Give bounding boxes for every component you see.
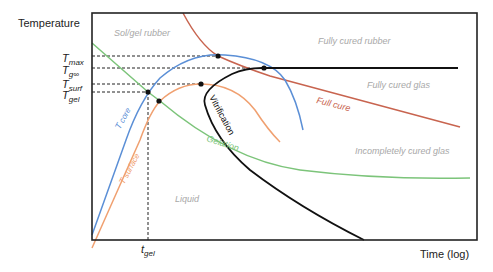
region-sol-gel-rubber: Sol/gel rubber <box>114 28 171 38</box>
label-gelation: Gelation <box>205 133 240 153</box>
region-incompletely-cured-glas: Incompletely cured glas <box>355 146 450 156</box>
label-vitrification: Vitrification <box>207 93 236 136</box>
x-tick-tgel: tgel <box>141 243 155 258</box>
label-full-cure: Full cure <box>316 95 352 113</box>
dot-tginf <box>261 65 266 70</box>
x-axis-label: Time (log) <box>420 248 469 260</box>
dot-tmax <box>215 53 220 58</box>
t-surface-curve <box>92 84 280 248</box>
ttt-cure-diagram: Temperature Time (log) Tmax Tg∞ Tsurf Tg… <box>0 0 493 272</box>
dot-tgel-surface <box>156 98 161 103</box>
region-fully-cured-glas: Fully cured glas <box>367 80 431 90</box>
region-liquid: Liquid <box>175 194 200 204</box>
t-core-curve <box>92 55 303 235</box>
gelation-curve <box>92 43 470 178</box>
dot-tgel-core <box>145 89 150 94</box>
plot-frame <box>92 13 477 240</box>
dot-tsurf <box>198 81 203 86</box>
region-fully-cured-rubber: Fully cured rubber <box>318 36 392 46</box>
y-axis-label: Temperature <box>18 17 80 29</box>
label-t-core: Tcore <box>113 105 133 131</box>
